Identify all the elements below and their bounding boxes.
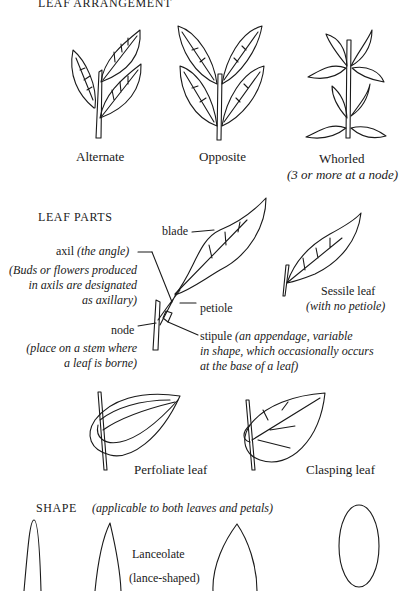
leaf-parts-drawing (138, 198, 266, 350)
label-lanceolate: Lanceolate (132, 548, 185, 560)
label-whorled: Whorled (319, 152, 364, 165)
whorled-note: (3 or more at a node) (287, 168, 398, 181)
label-alternate: Alternate (76, 150, 124, 163)
axil-note-line-3: as axillary) (82, 294, 137, 306)
perfoliate-leaf-drawing (90, 392, 180, 470)
label-axil: axil (the angle) (56, 245, 129, 257)
node-note-line-1: (place on a stem where (26, 342, 137, 354)
whorled-arrangement-drawing (306, 30, 386, 138)
linear-shape (24, 520, 41, 591)
label-perfoliate-leaf: Perfoliate leaf (134, 463, 207, 476)
axil-note-line-2: in axils are designated (28, 279, 137, 291)
stipule-note-line-2: in shape, which occasionally occurs (200, 345, 374, 357)
heading-shape: SHAPE (36, 502, 77, 514)
sessile-note: (with no petiole) (306, 300, 385, 312)
clasping-leaf-drawing (244, 393, 325, 470)
opposite-arrangement-drawing (178, 26, 264, 140)
label-opposite: Opposite (199, 150, 246, 163)
label-blade: blade (162, 225, 188, 237)
label-clasping-leaf: Clasping leaf (306, 463, 375, 476)
label-petiole: petiole (200, 302, 233, 314)
label-stipule: stipule (an appendage, variable (200, 330, 353, 342)
oval-shape (339, 505, 379, 587)
label-node: node (111, 324, 134, 336)
lanceolate-shape (95, 523, 121, 591)
leaf-shape-outlines (24, 505, 379, 591)
ovate-shape (213, 524, 257, 591)
label-sessile-leaf: Sessile leaf (321, 285, 375, 297)
alternate-arrangement-drawing (72, 30, 141, 138)
heading-leaf-arrangement: LEAF ARRANGEMENT (38, 0, 172, 9)
node-note-line-2: a leaf is borne) (64, 357, 137, 369)
heading-leaf-parts: LEAF PARTS (38, 211, 113, 223)
lanceolate-note: (lance-shaped) (129, 572, 200, 584)
shape-subheading: (applicable to both leaves and petals) (92, 502, 273, 514)
stipule-note-line-3: at the base of a leaf) (200, 360, 298, 372)
axil-note-line-1: (Buds or flowers produced (9, 264, 137, 276)
